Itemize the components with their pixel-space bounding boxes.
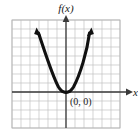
vertex-point-label: (0, 0) — [70, 96, 92, 108]
vertex-point-marker — [64, 91, 67, 94]
y-axis-arrowhead-icon — [63, 15, 70, 22]
x-axis-label: x — [132, 86, 138, 98]
parabola-curve — [39, 33, 90, 92]
coordinate-plane-svg: f(x) x (0, 0) — [0, 0, 138, 137]
y-axis-label: f(x) — [58, 2, 74, 15]
graph-figure: f(x) x (0, 0) — [0, 0, 138, 137]
x-axis-arrowhead-icon — [126, 89, 133, 96]
